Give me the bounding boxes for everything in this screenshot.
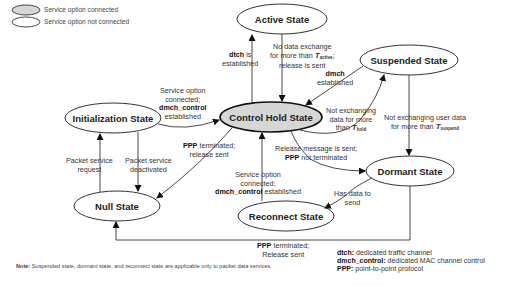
state-control-hold-label: Control Hold State bbox=[229, 112, 312, 123]
label-packet-deactivated: Packet service deactivated bbox=[125, 157, 172, 174]
legend-connected-swatch bbox=[12, 5, 40, 15]
state-dormant-label: Dormant State bbox=[378, 166, 443, 177]
label-no-data-active: No data exchange for more than Tactive; … bbox=[270, 43, 334, 71]
label-ppp-terminated-ch: PPP terminated; release sent bbox=[183, 142, 235, 159]
state-reconnect-label: Reconnect State bbox=[249, 211, 323, 222]
abbr-dtch: dtch: dedicated traffic channel bbox=[337, 249, 485, 257]
abbr-ppp: PPP: point-to-point protocol bbox=[337, 265, 485, 273]
label-has-data: Has data to send bbox=[334, 190, 371, 207]
label-packet-request: Packet service request bbox=[66, 157, 113, 174]
label-release-msg-sent: Release message is sent; PPP not termina… bbox=[275, 145, 357, 162]
state-suspended-label: Suspended State bbox=[370, 55, 447, 66]
legend-not-connected-swatch bbox=[12, 17, 40, 27]
state-active-label: Active State bbox=[255, 14, 309, 25]
footnote: Note: Suspended state, dormant state, an… bbox=[16, 263, 272, 269]
label-dmch-established: dmch established bbox=[317, 70, 353, 87]
label-ppp-terminated-dormant: PPP terminated; Release sent bbox=[257, 242, 309, 259]
label-svc-connected-reconnect: Service option connected; dmch_control e… bbox=[215, 171, 301, 197]
label-dtch-established: dtch is established bbox=[222, 51, 258, 68]
abbr-dmch-control: dmch_control: dedicated MAC channel cont… bbox=[337, 257, 485, 265]
legend-connected-label: Service option connected bbox=[44, 6, 118, 13]
abbreviation-legend: dtch: dedicated traffic channel dmch_con… bbox=[337, 249, 485, 274]
label-not-exch-suspend: Not exchanging user data for more than T… bbox=[384, 114, 466, 133]
legend-not-connected-label: Service option not connected bbox=[44, 18, 129, 25]
label-not-exch-hold: Not exchanging data for more than Thold bbox=[326, 107, 376, 135]
state-initialization-label: Initialization State bbox=[73, 113, 154, 124]
state-null-label: Null State bbox=[95, 201, 139, 212]
label-svc-connected-init: Service option connected; dmch_control e… bbox=[159, 87, 207, 121]
